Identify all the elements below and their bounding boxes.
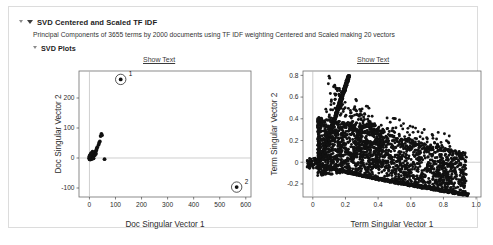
svg-text:0.2: 0.2 — [341, 201, 350, 208]
svg-text:100: 100 — [63, 124, 74, 131]
triangle-down-icon-plots[interactable] — [33, 46, 37, 49]
svg-text:500: 500 — [214, 201, 225, 208]
show-text-link-doc[interactable]: Show Text — [143, 56, 175, 63]
term-plot-canvas[interactable]: 00.20.40.60.81.0 -0.200.20.40.60.8 Term … — [267, 65, 489, 233]
svg-text:0.4: 0.4 — [374, 201, 383, 208]
triangle-down-icon-svd[interactable] — [27, 20, 33, 24]
term-x-tick-labels: 00.20.40.60.81.0 — [311, 197, 481, 208]
report-description: Principal Components of 3655 terms by 20… — [33, 31, 395, 38]
doc-singular-vector-plot[interactable]: 12 0100200300400500600 -1000100200 Doc S… — [51, 65, 259, 233]
svg-text:100: 100 — [110, 201, 121, 208]
svg-text:400: 400 — [188, 201, 199, 208]
svg-text:0.6: 0.6 — [289, 93, 298, 100]
svg-text:1.0: 1.0 — [472, 201, 481, 208]
svg-text:600: 600 — [240, 201, 251, 208]
svg-text:200: 200 — [63, 94, 74, 101]
term-y-axis-title: Term Singular Vector 2 — [270, 92, 279, 175]
term-y-tick-labels: -0.200.20.40.60.8 — [287, 72, 303, 188]
doc-y-tick-labels: -1000100200 — [61, 94, 79, 191]
svg-text:-100: -100 — [61, 184, 75, 191]
svg-text:0: 0 — [71, 154, 75, 161]
svg-text:2: 2 — [245, 178, 249, 185]
svg-text:0.6: 0.6 — [406, 201, 415, 208]
show-text-link-term[interactable]: Show Text — [357, 56, 389, 63]
svg-text:0: 0 — [311, 201, 315, 208]
report-panel: SVD Centered and Scaled TF IDF Principal… — [8, 6, 478, 228]
svg-text:0.8: 0.8 — [289, 72, 298, 79]
svg-text:300: 300 — [162, 201, 173, 208]
svg-text:0: 0 — [295, 159, 299, 166]
doc-x-axis-title: Doc Singular Vector 1 — [125, 220, 205, 229]
doc-plot-canvas[interactable]: 12 0100200300400500600 -1000100200 Doc S… — [51, 65, 259, 233]
triangle-down-icon-outer[interactable] — [19, 20, 23, 23]
svg-text:0.2: 0.2 — [289, 137, 298, 144]
doc-y-axis-title: Doc Singular Vector 2 — [54, 94, 63, 174]
svg-text:-0.2: -0.2 — [287, 180, 299, 187]
term-singular-vector-plot[interactable]: 00.20.40.60.81.0 -0.200.20.40.60.8 Term … — [267, 65, 489, 233]
svg-text:0.4: 0.4 — [289, 115, 298, 122]
svg-text:1: 1 — [129, 70, 133, 77]
term-x-axis-title: Term Singular Vector 1 — [351, 220, 434, 229]
section-title: SVD Plots — [41, 44, 76, 53]
svg-text:200: 200 — [136, 201, 147, 208]
doc-plot-frame — [79, 71, 251, 197]
doc-x-tick-labels: 0100200300400500600 — [88, 197, 252, 208]
outline-row-svd-plots[interactable]: SVD Plots — [33, 44, 76, 53]
report-title: SVD Centered and Scaled TF IDF — [37, 18, 157, 27]
svg-text:0: 0 — [88, 201, 92, 208]
outline-row-svd[interactable]: SVD Centered and Scaled TF IDF — [19, 18, 157, 27]
svd-report-screen: SVD Centered and Scaled TF IDF Principal… — [0, 0, 493, 245]
svg-text:0.8: 0.8 — [439, 201, 448, 208]
